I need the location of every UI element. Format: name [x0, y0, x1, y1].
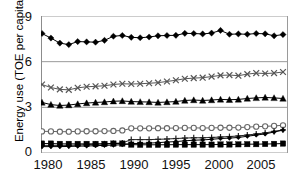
marker-filled-square [200, 142, 205, 147]
marker-filled-diamond [128, 34, 134, 40]
marker-filled-diamond [271, 33, 277, 39]
marker-open-circle [182, 125, 187, 130]
marker-filled-diamond [262, 31, 268, 37]
marker-open-circle [57, 129, 62, 134]
marker-filled-diamond [253, 30, 259, 36]
marker-open-circle [164, 126, 169, 131]
x-axis-tick-labels: 1980 1985 1990 1995 2000 2005 [0, 158, 306, 180]
marker-filled-diamond [57, 40, 63, 46]
series-4-open-circle [41, 123, 286, 135]
marker-open-circle [120, 128, 125, 133]
marker-filled-diamond [217, 27, 223, 33]
marker-filled-diamond [191, 30, 197, 36]
plot-area [41, 16, 288, 153]
marker-filled-square [280, 141, 285, 146]
marker-open-circle [173, 125, 178, 130]
marker-filled-diamond [92, 39, 98, 45]
marker-open-circle [245, 125, 250, 130]
marker-open-circle [41, 129, 45, 134]
marker-filled-square [227, 142, 232, 147]
marker-filled-square [209, 142, 214, 147]
marker-filled-diamond [101, 37, 107, 43]
marker-open-circle [218, 125, 223, 130]
y-tick-3: 3 [14, 100, 32, 113]
marker-filled-diamond [66, 42, 72, 48]
marker-filled-diamond [173, 32, 179, 38]
marker-open-circle [129, 126, 134, 131]
marker-filled-diamond [235, 31, 241, 37]
marker-filled-diamond [41, 30, 45, 36]
marker-filled-diamond [164, 32, 170, 38]
chart-container: Energy use (TOE per capita) 9 6 3 0 1980… [0, 0, 306, 186]
marker-filled-diamond [84, 39, 90, 45]
marker-open-circle [111, 128, 116, 133]
marker-filled-diamond [155, 33, 161, 39]
marker-filled-diamond [137, 35, 143, 41]
y-tick-6: 6 [14, 55, 32, 68]
marker-filled-diamond [244, 31, 250, 37]
marker-open-circle [254, 124, 259, 129]
marker-open-circle [48, 129, 53, 134]
marker-filled-square [245, 141, 250, 146]
marker-filled-diamond [226, 31, 232, 37]
marker-filled-diamond [119, 32, 125, 38]
marker-filled-diamond [182, 30, 188, 36]
marker-open-circle [93, 129, 98, 134]
marker-filled-square [271, 141, 276, 146]
series-1-filled-diamond [41, 27, 286, 47]
y-tick-0: 0 [14, 145, 32, 158]
marker-filled-diamond [110, 33, 116, 39]
marker-filled-square [236, 142, 241, 147]
marker-open-circle [191, 125, 196, 130]
series-3-filled-triangle [41, 94, 286, 108]
marker-filled-diamond [75, 38, 81, 44]
marker-open-circle [84, 129, 89, 134]
marker-filled-square [254, 141, 259, 146]
marker-open-circle [75, 129, 80, 134]
marker-filled-diamond [200, 31, 206, 37]
marker-open-circle [147, 126, 152, 131]
marker-open-circle [66, 129, 71, 134]
marker-open-circle [263, 124, 268, 129]
marker-open-circle [271, 123, 276, 128]
marker-filled-diamond [146, 34, 152, 40]
marker-open-circle [102, 128, 107, 133]
chart-svg [41, 16, 288, 153]
marker-filled-square [262, 141, 267, 146]
series-2-x-mark [41, 69, 286, 93]
marker-filled-diamond-small [281, 128, 286, 133]
marker-filled-square [218, 142, 223, 147]
y-tick-9: 9 [14, 10, 32, 23]
marker-open-circle [227, 125, 232, 130]
marker-filled-diamond [208, 30, 214, 36]
x-tick-2005: 2005 [233, 158, 289, 171]
marker-open-circle [209, 125, 214, 130]
marker-open-circle [200, 125, 205, 130]
marker-filled-diamond-small [272, 130, 277, 135]
marker-open-circle [138, 126, 143, 131]
marker-open-circle [155, 126, 160, 131]
marker-filled-diamond [48, 35, 54, 41]
marker-open-circle [236, 125, 241, 130]
marker-filled-diamond [280, 31, 286, 37]
marker-filled-triangle [41, 99, 45, 105]
